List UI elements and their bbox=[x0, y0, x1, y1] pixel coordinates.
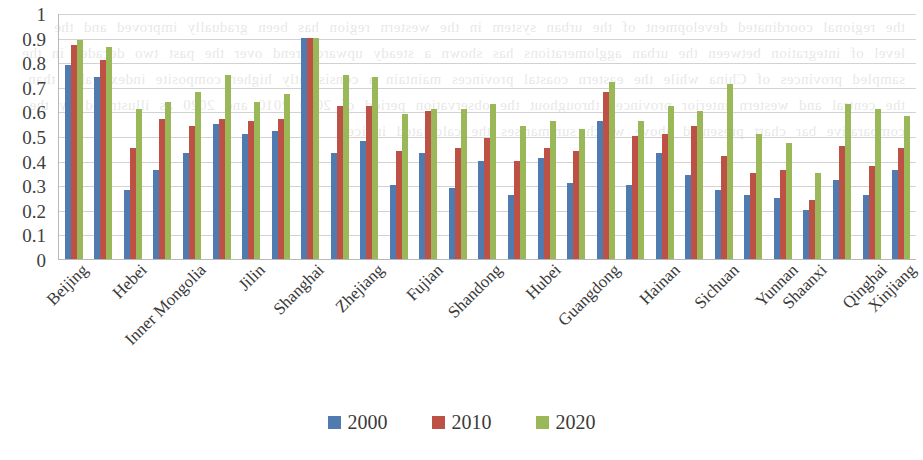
bar bbox=[195, 92, 201, 259]
bar bbox=[431, 109, 437, 259]
y-tick-label: 0.6 bbox=[22, 103, 46, 122]
legend-color-swatch bbox=[536, 416, 549, 429]
bar bbox=[786, 143, 792, 259]
bar-group bbox=[591, 14, 621, 259]
bar-group bbox=[561, 14, 591, 259]
bar bbox=[875, 109, 881, 259]
bar bbox=[284, 94, 290, 259]
bar bbox=[668, 106, 674, 259]
bar-group bbox=[266, 14, 296, 259]
bar bbox=[136, 109, 142, 259]
x-axis-category-labels: BeijingHebeiInner MongoliaJilinShanghaiZ… bbox=[58, 261, 916, 351]
bar-group bbox=[177, 14, 207, 259]
y-axis-tick-labels: 00.10.20.30.40.50.60.70.80.91 bbox=[0, 14, 52, 260]
y-tick-label: 0.2 bbox=[22, 201, 46, 220]
y-tick-label: 0.1 bbox=[22, 226, 46, 245]
bar bbox=[254, 102, 260, 259]
bar-group bbox=[798, 14, 828, 259]
legend-label: 2010 bbox=[452, 412, 492, 432]
chart-legend: 200020102020 bbox=[0, 412, 923, 432]
y-tick-label: 0.5 bbox=[22, 128, 46, 147]
bar bbox=[490, 104, 496, 259]
legend-label: 2000 bbox=[348, 412, 388, 432]
legend-item[interactable]: 2000 bbox=[328, 412, 388, 432]
y-tick-label: 0.7 bbox=[22, 78, 46, 97]
bar-group bbox=[502, 14, 532, 259]
y-tick-label: 0.9 bbox=[22, 29, 46, 48]
bar-group bbox=[148, 14, 178, 259]
bar-group bbox=[384, 14, 414, 259]
bar-group bbox=[89, 14, 119, 259]
y-tick-label: 0 bbox=[37, 251, 47, 270]
bar bbox=[609, 82, 615, 259]
legend-item[interactable]: 2010 bbox=[432, 412, 492, 432]
bar bbox=[550, 121, 556, 259]
y-tick-label: 0.8 bbox=[22, 54, 46, 73]
bar bbox=[77, 40, 83, 259]
bar-group bbox=[443, 14, 473, 259]
y-tick-label: 1 bbox=[37, 5, 47, 24]
legend-label: 2020 bbox=[556, 412, 596, 432]
bar bbox=[727, 84, 733, 259]
bar-group bbox=[118, 14, 148, 259]
bar bbox=[372, 77, 378, 259]
bar-group bbox=[679, 14, 709, 259]
bar-group bbox=[620, 14, 650, 259]
y-axis-line bbox=[58, 14, 59, 260]
bar-group bbox=[886, 14, 916, 259]
bar-group bbox=[768, 14, 798, 259]
legend-color-swatch bbox=[432, 416, 445, 429]
bar-group bbox=[473, 14, 503, 259]
bar-group bbox=[709, 14, 739, 259]
bar-group bbox=[325, 14, 355, 259]
bar-chart: 00.10.20.30.40.50.60.70.80.91 BeijingHeb… bbox=[0, 0, 923, 460]
legend-color-swatch bbox=[328, 416, 341, 429]
bar-group bbox=[739, 14, 769, 259]
y-tick-label: 0.4 bbox=[22, 152, 46, 171]
bar bbox=[313, 38, 319, 259]
y-tick-label: 0.3 bbox=[22, 177, 46, 196]
bar-groups bbox=[59, 14, 916, 259]
plot-area bbox=[58, 14, 916, 260]
bar-group bbox=[295, 14, 325, 259]
legend-item[interactable]: 2020 bbox=[536, 412, 596, 432]
bar-group bbox=[207, 14, 237, 259]
bar-group bbox=[857, 14, 887, 259]
bar-group bbox=[827, 14, 857, 259]
bar-group bbox=[59, 14, 89, 259]
